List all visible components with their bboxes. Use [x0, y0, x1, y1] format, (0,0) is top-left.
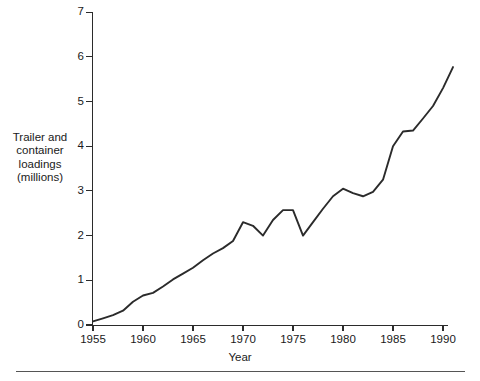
x-axis-tick-label: 1985	[371, 333, 415, 345]
y-axis-tick	[86, 56, 92, 57]
y-axis-label-line-1: Trailer and	[2, 131, 78, 144]
x-axis-label: Year	[0, 351, 480, 363]
x-axis-tick	[242, 325, 243, 331]
y-axis-tick-label: 1	[58, 274, 84, 286]
y-axis-line	[92, 12, 93, 326]
y-axis-tick	[86, 146, 92, 147]
y-axis-tick-label: 0	[58, 319, 84, 331]
x-axis-tick-label: 1965	[171, 333, 215, 345]
y-axis-tick	[86, 235, 92, 236]
y-axis-tick	[86, 101, 92, 102]
x-axis-tick-label: 1955	[71, 333, 115, 345]
x-axis-tick	[92, 325, 93, 331]
x-axis-tick	[392, 325, 393, 331]
y-axis-tick	[86, 12, 92, 13]
y-axis-tick-label: 2	[58, 230, 84, 242]
y-axis-tick	[86, 280, 92, 281]
x-axis-tick	[342, 325, 343, 331]
y-axis-tick-label: 7	[58, 6, 84, 18]
y-axis-label-line-2: container	[2, 144, 78, 157]
x-axis-tick	[442, 325, 443, 331]
x-axis-tick-label: 1990	[421, 333, 465, 345]
x-axis-tick-label: 1960	[121, 333, 165, 345]
x-axis-tick-label: 1970	[221, 333, 265, 345]
y-axis-tick	[86, 190, 92, 191]
x-axis-line	[92, 325, 448, 326]
y-axis-tick-label: 5	[58, 96, 84, 108]
y-axis-label-line-3: loadings	[2, 158, 78, 171]
y-axis-label-line-4: (millions)	[2, 171, 78, 184]
x-axis-tick	[142, 325, 143, 331]
x-axis-tick	[192, 325, 193, 331]
y-axis-tick-label: 3	[58, 185, 84, 197]
y-axis-tick	[86, 324, 92, 325]
x-axis-tick-label: 1980	[321, 333, 365, 345]
x-axis-tick-label: 1975	[271, 333, 315, 345]
footer-rule	[16, 371, 465, 372]
x-axis-tick	[292, 325, 293, 331]
y-axis-label: Trailer and container loadings (millions…	[2, 131, 78, 185]
figure: 01234567 1955196019651970197519801985199…	[0, 0, 480, 381]
series-line	[93, 67, 453, 321]
y-axis-tick-label: 6	[58, 51, 84, 63]
